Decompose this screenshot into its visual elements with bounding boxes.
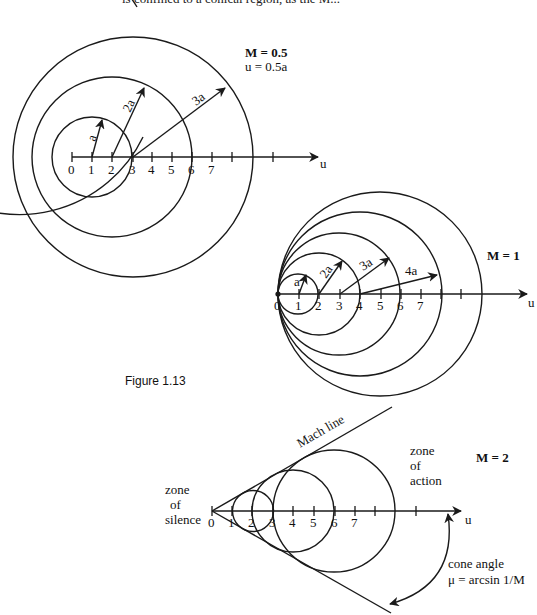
radius-label-2a: 2a xyxy=(316,262,335,281)
svg-text:1: 1 xyxy=(228,515,235,530)
figure-caption: Figure 1.13 xyxy=(125,374,186,388)
cone-angle-formula: μ = arcsin 1/M xyxy=(448,572,525,587)
svg-text:6: 6 xyxy=(188,162,195,177)
mach-title-sonic: M = 1 xyxy=(487,248,520,263)
cone-angle-arrow xyxy=(390,514,449,604)
svg-text:silence: silence xyxy=(165,512,201,527)
svg-text:of: of xyxy=(170,497,182,512)
radius-arrow-2a xyxy=(112,88,144,157)
svg-text:3: 3 xyxy=(129,162,136,177)
zone-of-silence-label: zone of silence xyxy=(165,482,201,527)
svg-text:5: 5 xyxy=(310,515,317,530)
figure-canvas: is confined to a conical region, as the … xyxy=(0,0,537,615)
svg-text:7: 7 xyxy=(351,515,358,530)
mach-line-label: Mach line xyxy=(294,411,347,450)
diagram-sonic: 0 1 2 3 4 5 6 7 u a 2a 3a 4a M = 1 xyxy=(274,192,535,396)
svg-text:zone: zone xyxy=(410,443,435,458)
svg-text:4: 4 xyxy=(289,515,296,530)
mach-title-supersonic: M = 2 xyxy=(476,450,509,465)
tick-labels: 0 1 2 3 4 5 6 7 xyxy=(208,515,358,530)
diagram-supersonic: 0 1 2 3 4 5 6 7 u Mach line zone of acti… xyxy=(165,407,525,613)
radius-label-a: a xyxy=(84,133,100,143)
tick-labels: 0 1 2 3 4 5 6 7 xyxy=(274,298,424,313)
svg-text:2: 2 xyxy=(108,162,115,177)
radius-label-2a: 2a xyxy=(119,97,138,115)
axis-label-u: u xyxy=(320,156,327,171)
svg-text:7: 7 xyxy=(208,162,215,177)
zone-of-action-label: zone of action xyxy=(410,443,442,488)
svg-text:2: 2 xyxy=(315,298,322,313)
svg-text:5: 5 xyxy=(168,162,175,177)
svg-text:4: 4 xyxy=(356,298,363,313)
svg-text:zone: zone xyxy=(165,482,190,497)
axis-label-u: u xyxy=(528,295,535,310)
axis-label-u: u xyxy=(465,512,472,527)
svg-text:1: 1 xyxy=(295,298,302,313)
svg-text:3: 3 xyxy=(336,298,343,313)
speed-subtitle: u = 0.5a xyxy=(245,59,288,74)
svg-text:0: 0 xyxy=(68,162,75,177)
svg-text:1: 1 xyxy=(88,162,95,177)
svg-text:5: 5 xyxy=(377,298,384,313)
svg-text:3: 3 xyxy=(269,515,276,530)
radius-label-4a: 4a xyxy=(405,263,418,278)
radius-arrow-a xyxy=(299,275,306,294)
svg-text:2: 2 xyxy=(248,515,255,530)
diagram-subsonic: 0 1 2 3 4 5 6 7 u a 2a 3a M = 0.5 u = 0.… xyxy=(0,0,327,277)
svg-text:0: 0 xyxy=(274,298,281,313)
svg-text:0: 0 xyxy=(208,515,215,530)
radius-label-a: a xyxy=(294,274,300,289)
radius-label-3a: 3a xyxy=(189,89,208,109)
svg-text:7: 7 xyxy=(417,298,424,313)
svg-text:action: action xyxy=(410,473,442,488)
svg-text:of: of xyxy=(410,458,422,473)
svg-text:6: 6 xyxy=(331,515,338,530)
cone-angle-label: cone angle xyxy=(448,556,504,571)
mach-title-subsonic: M = 0.5 xyxy=(245,45,288,60)
radius-arrow-3a xyxy=(133,88,225,157)
tick-labels: 0 1 2 3 4 5 6 7 xyxy=(68,162,215,177)
header-cut-text: is confined to a conical region, as the … xyxy=(122,0,340,6)
svg-text:6: 6 xyxy=(397,298,404,313)
svg-text:4: 4 xyxy=(148,162,155,177)
